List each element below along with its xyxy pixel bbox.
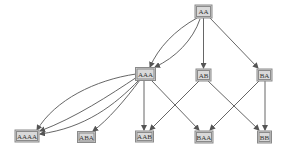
- node-baa: BAA: [195, 131, 213, 143]
- edge-aa-to-ba: [210, 18, 258, 68]
- node-aa: AA: [195, 5, 212, 18]
- node-label: AAA: [138, 71, 153, 79]
- node-label: AA: [198, 8, 208, 16]
- node-label: AAB: [137, 133, 152, 141]
- node-label: ABA: [79, 134, 94, 142]
- edge-aaa-to-aaaa: [37, 74, 136, 130]
- node-label: AB: [199, 72, 209, 80]
- node-aba: ABA: [78, 132, 96, 143]
- node-label: BA: [260, 72, 270, 80]
- nodes-layer: AAAAAABBAAAAAABAAABBAABB: [15, 5, 272, 143]
- node-aab: AAB: [136, 131, 154, 142]
- node-label: BAA: [197, 134, 212, 142]
- node-label: AAAA: [17, 133, 37, 141]
- edge-aaa-to-aaaa: [40, 77, 137, 131]
- node-bb: BB: [258, 131, 272, 143]
- graph-diagram: AAAAAABBAAAAAABAAABBAABB: [0, 0, 286, 151]
- edge-aaa-to-aba: [93, 80, 140, 131]
- node-label: BB: [260, 134, 270, 142]
- node-aaa: AAA: [136, 68, 156, 81]
- node-ba: BA: [257, 69, 272, 81]
- edge-aa-to-aaa: [155, 19, 200, 67]
- node-ab: AB: [196, 69, 211, 81]
- node-aaaa: AAAA: [15, 130, 39, 142]
- edge-aa-to-aaa: [150, 18, 197, 67]
